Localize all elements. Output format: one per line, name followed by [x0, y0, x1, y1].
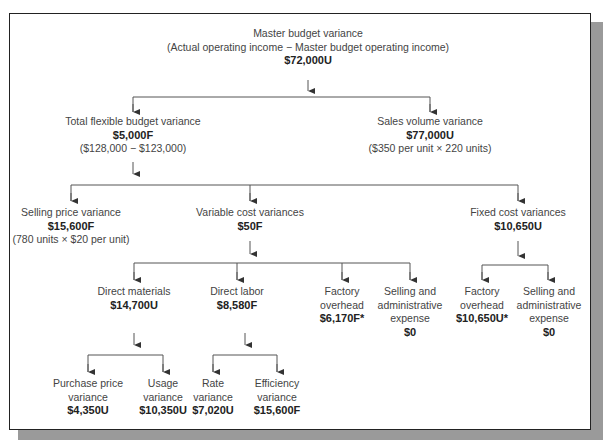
node-line1: Selling and: [514, 285, 584, 299]
node-line1: Factory: [310, 285, 374, 299]
node-title: Fixed cost variances: [463, 206, 573, 220]
node-amount: $10,650U*: [450, 312, 514, 326]
node-formula: ($128,000 − $123,000): [53, 142, 213, 156]
node-amount: $15,600F: [247, 404, 307, 418]
node-variable-cost-variances: Variable cost variances $50F: [190, 206, 310, 233]
node-amount: $10,350U: [133, 404, 193, 418]
node-line2: variance: [186, 391, 240, 405]
node-rate-variance: Rate variance $7,020U: [186, 377, 240, 418]
node-formula: ($350 per unit × 220 units): [355, 142, 505, 156]
node-amount: $0: [375, 326, 445, 340]
node-selling-price-variance: Selling price variance $15,600F (780 uni…: [6, 206, 136, 247]
node-variable-selling-admin-expense: Selling and administrative expense $0: [375, 285, 445, 339]
node-line1: Selling and: [375, 285, 445, 299]
node-amount: $14,700U: [89, 299, 179, 313]
node-title: Direct labor: [202, 285, 272, 299]
node-amount: $15,600F: [6, 220, 136, 234]
node-line3: expense: [375, 312, 445, 326]
node-master-budget-variance: Master budget variance (Actual operating…: [160, 27, 456, 68]
node-title: Variable cost variances: [190, 206, 310, 220]
node-line2: administrative: [514, 299, 584, 313]
node-line2: overhead: [450, 299, 514, 313]
node-amount: $72,000U: [160, 54, 456, 68]
node-line2: administrative: [375, 299, 445, 313]
node-amount: $77,000U: [355, 129, 505, 143]
node-amount: $4,350U: [53, 404, 123, 418]
node-usage-variance: Usage variance $10,350U: [133, 377, 193, 418]
node-amount: $6,170F*: [310, 312, 374, 326]
node-amount: $10,650U: [463, 220, 573, 234]
node-line3: expense: [514, 312, 584, 326]
node-purchase-price-variance: Purchase price variance $4,350U: [53, 377, 123, 418]
node-title: Total flexible budget variance: [53, 115, 213, 129]
node-efficiency-variance: Efficiency variance $15,600F: [247, 377, 307, 418]
node-title: Selling price variance: [6, 206, 136, 220]
node-line2: overhead: [310, 299, 374, 313]
node-line1: Efficiency: [247, 377, 307, 391]
node-fixed-factory-overhead: Factory overhead $10,650U*: [450, 285, 514, 326]
node-direct-labor: Direct labor $8,580F: [202, 285, 272, 312]
node-amount: $7,020U: [186, 404, 240, 418]
node-total-flexible-budget-variance: Total flexible budget variance $5,000F (…: [53, 115, 213, 156]
node-fixed-cost-variances: Fixed cost variances $10,650U: [463, 206, 573, 233]
node-formula: (Actual operating income − Master budget…: [160, 41, 456, 55]
node-line1: Purchase price: [53, 377, 123, 391]
node-sales-volume-variance: Sales volume variance $77,000U ($350 per…: [355, 115, 505, 156]
node-amount: $50F: [190, 220, 310, 234]
node-title: Master budget variance: [160, 27, 456, 41]
node-variable-factory-overhead: Factory overhead $6,170F*: [310, 285, 374, 326]
node-fixed-selling-admin-expense: Selling and administrative expense $0: [514, 285, 584, 339]
node-amount: $5,000F: [53, 129, 213, 143]
node-line2: variance: [247, 391, 307, 405]
node-line1: Rate: [186, 377, 240, 391]
node-amount: $0: [514, 326, 584, 340]
node-line1: Factory: [450, 285, 514, 299]
node-line1: Usage: [133, 377, 193, 391]
node-amount: $8,580F: [202, 299, 272, 313]
node-formula: (780 units × $20 per unit): [6, 233, 136, 247]
node-direct-materials: Direct materials $14,700U: [89, 285, 179, 312]
node-title: Sales volume variance: [355, 115, 505, 129]
node-line2: variance: [53, 391, 123, 405]
node-title: Direct materials: [89, 285, 179, 299]
node-line2: variance: [133, 391, 193, 405]
